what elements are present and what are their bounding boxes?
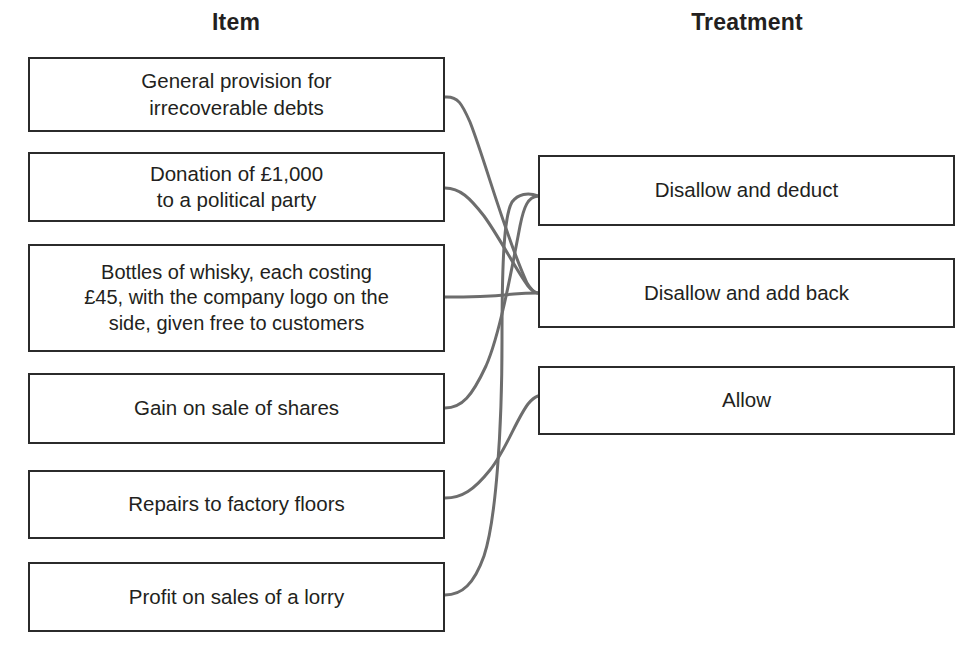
item-box-repairs-to-factory-floors[interactable]: Repairs to factory floors <box>28 470 445 539</box>
item-line: to a political party <box>150 187 323 213</box>
item-line: Gain on sale of shares <box>134 395 339 421</box>
item-text: General provision for irrecoverable debt… <box>141 68 331 120</box>
item-box-political-donation[interactable]: Donation of £1,000 to a political party <box>28 152 445 222</box>
item-box-whisky-bottles[interactable]: Bottles of whisky, each costing £45, wit… <box>28 244 445 352</box>
treatment-box-disallow-and-deduct[interactable]: Disallow and deduct <box>538 155 955 226</box>
matching-exercise-diagram: Item Treatment General provision for irr… <box>0 0 969 652</box>
treatment-box-disallow-and-add-back[interactable]: Disallow and add back <box>538 258 955 328</box>
column-heading-item: Item <box>0 9 472 36</box>
item-text: Repairs to factory floors <box>128 491 344 517</box>
connector-item-1-to-treat-1 <box>445 188 538 293</box>
item-line: side, given free to customers <box>84 311 389 337</box>
item-line: Profit on sales of a lorry <box>129 584 344 610</box>
connector-item-4-to-treat-2 <box>445 396 538 498</box>
connector-item-5-to-treat-0 <box>445 194 538 595</box>
item-box-profit-on-sales-of-lorry[interactable]: Profit on sales of a lorry <box>28 562 445 632</box>
treatment-text: Disallow and deduct <box>655 177 838 203</box>
treatment-text: Disallow and add back <box>644 280 849 306</box>
connector-item-2-to-treat-1 <box>445 293 538 297</box>
item-line: Donation of £1,000 <box>150 161 323 187</box>
item-text: Donation of £1,000 to a political party <box>150 161 323 213</box>
treatment-text: Allow <box>722 387 771 413</box>
item-line: Repairs to factory floors <box>128 491 344 517</box>
treatment-box-allow[interactable]: Allow <box>538 366 955 435</box>
item-line: Bottles of whisky, each costing <box>84 260 389 286</box>
item-box-general-provision[interactable]: General provision for irrecoverable debt… <box>28 57 445 132</box>
item-line: General provision for <box>141 68 331 94</box>
column-heading-treatment: Treatment <box>538 9 956 36</box>
item-text: Bottles of whisky, each costing £45, wit… <box>84 260 389 337</box>
item-line: irrecoverable debts <box>141 95 331 121</box>
connector-item-0-to-treat-1 <box>445 97 538 293</box>
item-line: £45, with the company logo on the <box>84 285 389 311</box>
item-text: Gain on sale of shares <box>134 395 339 421</box>
item-text: Profit on sales of a lorry <box>129 584 344 610</box>
item-box-gain-on-sale-of-shares[interactable]: Gain on sale of shares <box>28 373 445 444</box>
connector-item-3-to-treat-0 <box>445 196 538 408</box>
